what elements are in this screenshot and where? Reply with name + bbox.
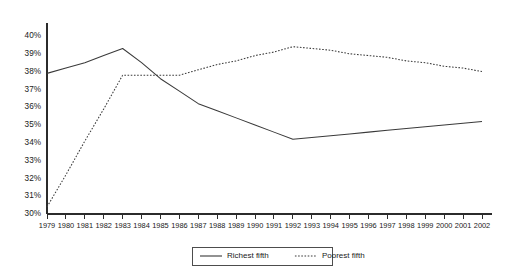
y-tick-label: 33% [25,156,41,165]
x-tick-label: 1983 [114,221,130,230]
series-line-richest-fifth [47,48,482,139]
x-axis: 1979198019811982198319841985198619871988… [39,214,492,230]
y-tick-label: 36% [25,102,41,111]
line-chart: 40%39%38%37%36%35%34%33%32%31%30% 197919… [0,0,510,275]
x-tick-label: 1994 [322,221,338,230]
x-tick-label: 1993 [304,221,320,230]
x-tick-label: 1981 [77,221,93,230]
chart-legend: Richest fifthPoorest fifth [192,247,365,265]
data-series-group [47,47,482,207]
y-tick-label: 40% [25,31,41,40]
x-tick-label: 1990 [247,221,263,230]
x-tick-label: 1992 [285,221,301,230]
x-tick-label: 1989 [228,221,244,230]
legend-label: Poorest fifth [322,251,365,260]
y-axis: 40%39%38%37%36%35%34%33%32%31%30% [25,23,47,218]
x-tick-label: 1987 [190,221,206,230]
y-tick-label: 35% [25,120,41,129]
x-tick-label: 1991 [266,221,282,230]
y-tick-label: 31% [25,191,41,200]
chart-container: 40%39%38%37%36%35%34%33%32%31%30% 197919… [0,0,510,275]
x-tick-label: 1998 [398,221,414,230]
y-tick-label: 37% [25,85,41,94]
x-tick-label: 1985 [152,221,168,230]
x-tick-label: 1995 [341,221,357,230]
x-tick-label: 2000 [436,221,452,230]
x-tick-label: 1988 [209,221,225,230]
x-tick-label: 2002 [474,221,490,230]
x-tick-label: 1997 [379,221,395,230]
x-tick-label: 1986 [171,221,187,230]
x-tick-label: 1980 [58,221,74,230]
x-tick-label: 1982 [96,221,112,230]
x-tick-label: 1979 [39,221,55,230]
x-tick-label: 1996 [360,221,376,230]
x-tick-label: 2001 [455,221,471,230]
y-tick-label: 30% [25,209,41,218]
x-tick-label: 1984 [133,221,149,230]
series-line-poorest-fifth [47,47,482,207]
x-tick-label: 1999 [417,221,433,230]
y-tick-label: 38% [25,67,41,76]
y-tick-label: 32% [25,174,41,183]
y-tick-label: 34% [25,138,41,147]
y-tick-label: 39% [25,49,41,58]
legend-label: Richest fifth [227,251,269,260]
